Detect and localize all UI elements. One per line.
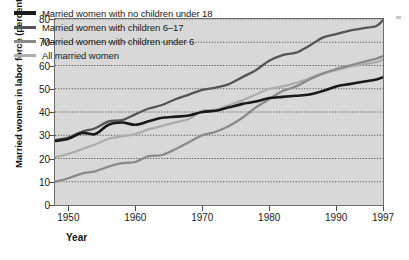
x-axis-label: Year xyxy=(66,232,87,243)
legend-item-0[interactable]: Married women with no children under 18 xyxy=(14,7,212,19)
legend-item-2[interactable]: Married women with children under 6 xyxy=(14,35,212,47)
legend-swatch-icon xyxy=(14,26,36,29)
chart-legend: Married women with no children under 18M… xyxy=(14,7,212,61)
legend-label: Married women with no children under 18 xyxy=(42,8,212,19)
x-axis-tick-1980: 1980 xyxy=(258,212,280,223)
series-line-3 xyxy=(55,60,383,158)
x-axis-tick-1950: 1950 xyxy=(57,212,79,223)
legend-swatch-icon xyxy=(14,54,36,57)
y-axis-tick-60: 60 xyxy=(10,60,50,71)
x-axis-tick-1997: 1997 xyxy=(372,212,394,223)
legend-label: Married women with children 6–17 xyxy=(42,22,183,33)
legend-item-1[interactable]: Married women with children 6–17 xyxy=(14,21,212,33)
y-axis-tick-40: 40 xyxy=(10,107,50,118)
legend-swatch-icon xyxy=(14,40,36,43)
x-axis-tick-1990: 1990 xyxy=(325,212,347,223)
x-tick-mark xyxy=(135,206,136,211)
legend-label: All married women xyxy=(42,50,119,61)
legend-item-3[interactable]: All married women xyxy=(14,49,212,61)
scan-artifact xyxy=(396,16,401,19)
x-axis-tick-1960: 1960 xyxy=(124,212,146,223)
y-axis-tick-20: 20 xyxy=(10,153,50,164)
x-tick-mark xyxy=(68,206,69,211)
x-tick-mark xyxy=(336,206,337,211)
y-axis-tick-0: 0 xyxy=(10,200,50,211)
x-tick-mark xyxy=(383,206,384,211)
y-axis-tick-30: 30 xyxy=(10,130,50,141)
legend-label: Married women with children under 6 xyxy=(42,36,194,47)
chart-figure: Married women in labor force (percent 01… xyxy=(0,0,409,260)
x-tick-mark xyxy=(202,206,203,211)
y-axis-tick-50: 50 xyxy=(10,83,50,94)
x-tick-mark xyxy=(269,206,270,211)
x-axis-tick-1970: 1970 xyxy=(191,212,213,223)
legend-swatch-icon xyxy=(14,11,36,15)
y-axis-tick-10: 10 xyxy=(10,176,50,187)
series-line-2 xyxy=(55,56,383,182)
